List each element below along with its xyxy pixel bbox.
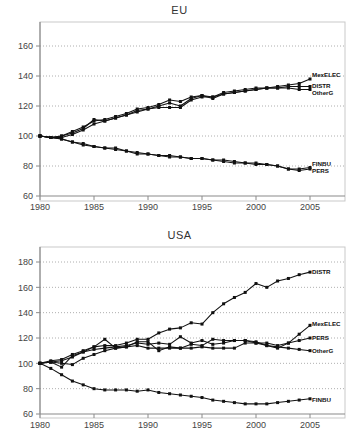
data-point (179, 394, 182, 397)
x-tick-label: 1985 (84, 420, 104, 430)
data-point (265, 286, 268, 289)
data-point (222, 342, 225, 345)
data-point (255, 402, 258, 405)
data-point (93, 387, 96, 390)
x-tick-label: 1990 (138, 202, 158, 212)
data-point (287, 277, 290, 280)
data-point (147, 153, 150, 156)
data-point (287, 400, 290, 403)
data-point (244, 342, 247, 345)
data-point (211, 343, 214, 346)
x-tick-label: 1985 (84, 202, 104, 212)
data-point (125, 388, 128, 391)
y-tick-label: 140 (18, 71, 33, 81)
data-point (147, 388, 150, 391)
x-tick-label: 2005 (300, 202, 320, 212)
data-point (276, 401, 279, 404)
y-tick-label: 120 (18, 101, 33, 111)
x-tick-label: 2005 (300, 420, 320, 430)
data-point (93, 145, 96, 148)
y-tick-label: 80 (23, 161, 33, 171)
data-point (190, 157, 193, 160)
data-point (255, 282, 258, 285)
data-point (71, 363, 74, 366)
data-point (255, 342, 258, 345)
data-point (201, 396, 204, 399)
data-point (222, 302, 225, 305)
data-point (114, 388, 117, 391)
data-point (265, 402, 268, 405)
data-point (157, 106, 160, 109)
data-point (233, 91, 236, 94)
series-label-finbu: FINBU (312, 396, 331, 403)
data-point (114, 148, 117, 151)
data-point (168, 328, 171, 331)
series-label-pers: PERS (312, 334, 329, 341)
data-point (298, 348, 301, 351)
chart-usa: USA 608010012014016018019801985199019952… (0, 223, 359, 444)
data-point (201, 345, 204, 348)
data-point (168, 99, 171, 102)
data-point (287, 347, 290, 350)
data-point (71, 380, 74, 383)
data-point (103, 349, 106, 352)
data-point (298, 399, 301, 402)
data-point (233, 162, 236, 165)
data-point (168, 106, 171, 109)
series-label-otherg: OtherG (312, 347, 334, 354)
x-tick-label: 1995 (192, 420, 212, 430)
data-point (114, 117, 117, 120)
data-point (168, 102, 171, 105)
data-point (201, 96, 204, 99)
data-point (93, 123, 96, 126)
data-point (244, 162, 247, 165)
y-tick-label: 160 (18, 41, 33, 51)
data-point (233, 347, 236, 350)
data-point (71, 141, 74, 144)
data-point (287, 87, 290, 90)
y-tick-label: 120 (18, 333, 33, 343)
series-label-mexelec: MexELEC (312, 320, 341, 327)
data-point (255, 163, 258, 166)
data-point (82, 144, 85, 147)
series-label-pers: PERS (312, 167, 329, 174)
y-tick-label: 60 (23, 409, 33, 419)
data-point (298, 333, 301, 336)
data-point (49, 367, 52, 370)
data-point (298, 88, 301, 91)
data-point (125, 150, 128, 153)
series-label-mexelec: MexELEC (312, 71, 341, 78)
chart-title: EU (0, 0, 359, 20)
data-point (287, 168, 290, 171)
data-point (211, 399, 214, 402)
data-point (60, 373, 63, 376)
data-point (190, 321, 193, 324)
plot-svg: 6080100120140160198019851990199520002005… (0, 18, 359, 223)
data-point (211, 96, 214, 99)
data-point (82, 350, 85, 353)
data-point (136, 111, 139, 114)
data-point (136, 344, 139, 347)
data-point (157, 342, 160, 345)
plot-frame (40, 247, 345, 418)
data-point (93, 348, 96, 351)
data-point (168, 392, 171, 395)
data-point (157, 347, 160, 350)
data-point (190, 395, 193, 398)
data-point (103, 388, 106, 391)
data-point (179, 106, 182, 109)
data-point (211, 338, 214, 341)
plot-area: 6080100120140160180198019851990199520002… (0, 243, 359, 444)
data-point (265, 344, 268, 347)
data-point (276, 165, 279, 168)
data-point (147, 347, 150, 350)
data-point (276, 87, 279, 90)
data-point (255, 88, 258, 91)
plot-area: 6080100120140160198019851990199520002005… (0, 18, 359, 223)
data-point (179, 100, 182, 103)
data-point (298, 273, 301, 276)
data-point (298, 85, 301, 88)
series-label-distr: DISTR (312, 82, 331, 89)
data-point (222, 93, 225, 96)
data-point (287, 342, 290, 345)
